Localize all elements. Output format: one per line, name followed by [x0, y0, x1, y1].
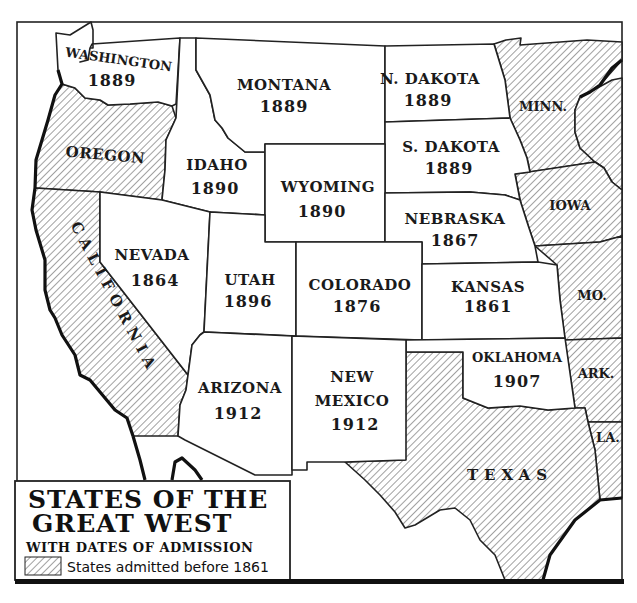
svg-text:1861: 1861: [464, 297, 513, 316]
label-minnesota: MINN.: [519, 99, 567, 114]
legend-title-line2: GREAT WEST: [32, 509, 232, 538]
svg-text:KANSAS: KANSAS: [451, 278, 525, 296]
svg-text:UTAH: UTAH: [224, 271, 275, 289]
svg-text:1867: 1867: [431, 231, 480, 250]
label-iowa: IOWA: [549, 198, 591, 213]
svg-text:NEW: NEW: [330, 368, 374, 386]
svg-text:1876: 1876: [333, 297, 382, 316]
legend-key-label: States admitted before 1861: [67, 559, 269, 575]
svg-text:ARK.: ARK.: [577, 366, 615, 381]
label-missouri: MO.: [577, 288, 606, 303]
label-texas: TEXAS: [467, 466, 553, 484]
bottom-border: [15, 579, 624, 584]
svg-text:1890: 1890: [191, 179, 240, 198]
svg-text:NEVADA: NEVADA: [115, 246, 190, 264]
legend-subtitle: WITH DATES OF ADMISSION: [25, 540, 254, 555]
svg-text:IOWA: IOWA: [549, 198, 591, 213]
svg-text:1864: 1864: [131, 271, 180, 290]
label-arkansas: ARK.: [577, 366, 615, 381]
svg-text:IDAHO: IDAHO: [186, 156, 247, 174]
svg-text:TEXAS: TEXAS: [467, 466, 553, 484]
svg-text:1889: 1889: [404, 91, 453, 110]
svg-text:COLORADO: COLORADO: [309, 276, 412, 294]
svg-text:MO.: MO.: [577, 288, 606, 303]
svg-text:1912: 1912: [214, 404, 263, 423]
legend-hatch-swatch: [25, 557, 61, 575]
svg-text:NEBRASKA: NEBRASKA: [405, 210, 506, 228]
svg-text:1889: 1889: [425, 159, 474, 178]
svg-text:MINN.: MINN.: [519, 99, 567, 114]
svg-text:1912: 1912: [331, 415, 380, 434]
svg-text:OKLAHOMA: OKLAHOMA: [472, 350, 563, 365]
svg-text:1890: 1890: [298, 202, 347, 221]
svg-text:1896: 1896: [224, 292, 273, 311]
svg-text:S. DAKOTA: S. DAKOTA: [402, 138, 500, 156]
great-west-map: WASHINGTON 1889 MONTANA 1889 N. DAKOTA 1…: [0, 0, 637, 603]
svg-text:1889: 1889: [88, 71, 137, 90]
svg-text:LA.: LA.: [596, 430, 620, 445]
svg-text:MEXICO: MEXICO: [315, 392, 390, 410]
label-louisiana: LA.: [596, 430, 620, 445]
coastline-baja: [133, 436, 145, 480]
svg-text:WYOMING: WYOMING: [280, 178, 375, 196]
svg-text:1907: 1907: [493, 372, 542, 391]
svg-text:1889: 1889: [260, 97, 309, 116]
svg-text:N. DAKOTA: N. DAKOTA: [380, 70, 480, 88]
svg-text:MONTANA: MONTANA: [237, 76, 331, 94]
map-legend: STATES OF THE GREAT WEST WITH DATES OF A…: [15, 481, 290, 580]
svg-text:ARIZONA: ARIZONA: [197, 379, 282, 397]
coastline-gulf: [172, 458, 202, 480]
